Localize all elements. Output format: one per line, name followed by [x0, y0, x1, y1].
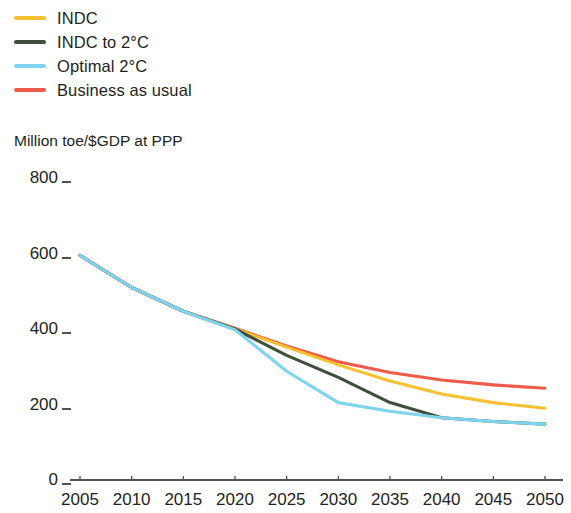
y-axis-tick-mark — [62, 483, 71, 485]
x-axis-tick-label: 2020 — [216, 490, 254, 510]
x-axis-tick-label: 2005 — [61, 490, 99, 510]
y-axis-tick-label: 0 — [12, 470, 58, 490]
y-axis-tick-label: 600 — [12, 244, 58, 264]
x-axis-tick-label: 2030 — [319, 490, 357, 510]
x-axis-tick-label: 2015 — [164, 490, 202, 510]
y-axis-tick-label: 800 — [12, 168, 58, 188]
y-axis-tick-mark — [62, 181, 71, 183]
chart-figure: INDCINDC to 2°COptimal 2°CBusiness as us… — [0, 0, 571, 513]
y-axis-tick-label: 200 — [12, 395, 58, 415]
x-axis-tick-label: 2010 — [113, 490, 151, 510]
data-series-line — [80, 255, 545, 388]
x-axis-tick-label: 2035 — [371, 490, 409, 510]
y-axis-tick-mark — [62, 257, 71, 259]
y-axis-tick-mark — [62, 408, 71, 410]
y-axis-tick-mark — [62, 332, 71, 334]
y-axis-tick-label: 400 — [12, 319, 58, 339]
x-axis-tick-label: 2045 — [474, 490, 512, 510]
x-axis-tick-label: 2050 — [526, 490, 564, 510]
line-chart-svg — [0, 0, 571, 513]
x-axis-tick-label: 2040 — [423, 490, 461, 510]
plot-area: 8006004002000 20052010201520202025203020… — [0, 0, 571, 513]
x-axis-tick-label: 2025 — [268, 490, 306, 510]
